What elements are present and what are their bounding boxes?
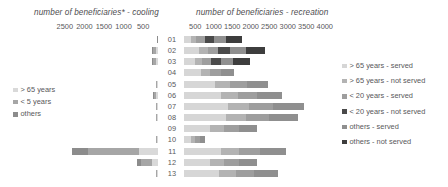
recreation-bar xyxy=(184,92,282,99)
bar-segment xyxy=(246,47,266,54)
bar-segment xyxy=(239,159,258,166)
row-label-13: 13 xyxy=(160,169,176,178)
axis-tick-label: 1500 xyxy=(223,22,242,31)
axis-tick-label: 500 xyxy=(133,22,153,31)
recreation-legend-item[interactable]: > 65 years - served xyxy=(342,62,425,70)
bar-segment xyxy=(139,148,158,155)
bar-segment xyxy=(211,58,221,65)
legend-label: > 65 years xyxy=(21,86,56,94)
recreation-legend-item[interactable]: others - not served xyxy=(342,138,425,146)
cooling-legend-item[interactable]: > 65 years xyxy=(13,86,55,94)
bar-segment xyxy=(184,36,191,43)
bar-segment xyxy=(184,103,228,110)
legend-swatch-icon xyxy=(342,109,347,114)
bar-segment xyxy=(260,148,286,155)
cooling-bar xyxy=(137,159,158,166)
bar-segment xyxy=(224,125,239,132)
row-label-04: 04 xyxy=(160,68,176,77)
bar-segment xyxy=(210,69,221,76)
bar-segment xyxy=(156,47,158,54)
recreation-bar xyxy=(184,136,205,143)
cooling-legend-item[interactable]: others xyxy=(13,110,55,118)
bar-segment xyxy=(156,92,158,99)
bar-segment xyxy=(214,36,226,43)
recreation-bar xyxy=(184,58,250,65)
legend-label: others - served xyxy=(350,123,399,131)
row-label-03: 03 xyxy=(160,57,176,66)
cooling-bar xyxy=(152,47,158,54)
bar-segment xyxy=(141,159,152,166)
recreation-axis-title: number of beneficiaries - recreation xyxy=(196,8,328,17)
recreation-bar xyxy=(184,69,234,76)
bar-segment xyxy=(157,81,158,88)
cooling-bar xyxy=(156,103,158,110)
cooling-bar xyxy=(153,92,158,99)
recreation-bar xyxy=(184,159,257,166)
legend-swatch-icon xyxy=(13,100,18,105)
bar-segment xyxy=(195,58,202,65)
recreation-bar xyxy=(184,36,242,43)
axis-tick-label: 1000 xyxy=(114,22,134,31)
row-label-06: 06 xyxy=(160,91,176,100)
bar-segment xyxy=(254,170,278,177)
legend-swatch-icon xyxy=(342,64,347,69)
bar-segment xyxy=(72,148,87,155)
legend-label: < 5 years xyxy=(21,98,52,106)
bar-segment xyxy=(156,58,158,65)
bar-segment xyxy=(210,125,223,132)
axis-tick-label: 2500 xyxy=(55,22,75,31)
row-label-08: 08 xyxy=(160,113,176,122)
bar-segment xyxy=(228,103,250,110)
bar-segment xyxy=(184,159,210,166)
recreation-legend-item[interactable]: < 20 years - not served xyxy=(342,108,425,116)
legend-swatch-icon xyxy=(13,112,18,117)
recreation-bar xyxy=(184,125,257,132)
bar-segment xyxy=(221,69,234,76)
bar-segment xyxy=(196,36,204,43)
chart-row: 13 xyxy=(0,170,448,177)
bar-segment xyxy=(257,92,281,99)
cooling-bar xyxy=(156,136,158,143)
axis-tick-label: 3000 xyxy=(279,22,298,31)
bar-segment xyxy=(233,58,250,65)
axis-tick-label: 3500 xyxy=(297,22,316,31)
bar-segment xyxy=(157,36,158,43)
recreation-axis-ticks: 5001000150020002500300035004000 xyxy=(186,22,334,31)
cooling-legend: > 65 years< 5 yearsothers xyxy=(13,86,55,123)
bar-segment xyxy=(269,114,298,121)
bar-segment xyxy=(152,159,158,166)
legend-swatch-icon xyxy=(342,140,347,145)
bar-segment xyxy=(184,125,210,132)
legend-label: others - not served xyxy=(350,138,412,146)
legend-swatch-icon xyxy=(342,94,347,99)
recreation-bar xyxy=(184,47,265,54)
bar-segment xyxy=(210,159,223,166)
bar-segment xyxy=(184,136,191,143)
row-label-05: 05 xyxy=(160,80,176,89)
row-label-10: 10 xyxy=(160,135,176,144)
recreation-bar xyxy=(184,81,268,88)
bar-segment xyxy=(184,114,226,121)
recreation-legend-item[interactable]: others - served xyxy=(342,123,425,131)
cooling-legend-item[interactable]: < 5 years xyxy=(13,98,55,106)
recreation-legend-item[interactable]: < 20 years - served xyxy=(342,92,425,100)
recreation-legend-item[interactable]: > 65 years - not served xyxy=(342,77,425,85)
bar-segment xyxy=(239,125,258,132)
cooling-axis-title: number of beneficiaries* - cooling xyxy=(34,8,159,17)
bar-segment xyxy=(224,159,239,166)
bar-segment xyxy=(184,170,219,177)
cooling-bar xyxy=(157,36,158,43)
bar-segment xyxy=(230,47,246,54)
axis-tick-label: 1500 xyxy=(94,22,114,31)
bar-segment xyxy=(226,114,246,121)
bar-segment xyxy=(247,81,268,88)
bar-segment xyxy=(205,36,215,43)
axis-tick-label: 2000 xyxy=(242,22,261,31)
chart-row: 02 xyxy=(0,47,448,54)
bar-segment xyxy=(226,36,242,43)
bar-segment xyxy=(219,170,236,177)
row-label-01: 01 xyxy=(160,35,176,44)
axis-tick-label: 2500 xyxy=(260,22,279,31)
recreation-bar xyxy=(184,170,278,177)
chart-row: 12 xyxy=(0,159,448,166)
